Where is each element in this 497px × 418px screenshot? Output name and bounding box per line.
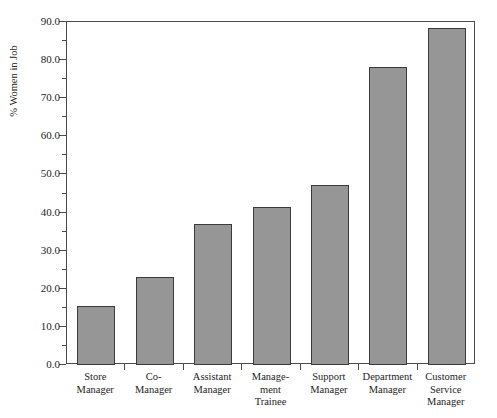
x-label-line: ment (241, 384, 299, 397)
x-label-line: Support (300, 371, 358, 384)
x-axis-label: CustomerServiceManager (417, 371, 475, 409)
x-tick-mark (358, 364, 359, 370)
y-tick-label: 0.0 (14, 358, 60, 370)
y-tick-mark (59, 364, 66, 365)
bar (369, 67, 407, 365)
x-tick-mark (300, 364, 301, 370)
x-tick-mark (241, 364, 242, 370)
x-axis-label: Manage-mentTrainee (241, 371, 299, 409)
y-tick-label: 30.0 (14, 244, 60, 256)
bar (253, 207, 291, 365)
x-label-line: Manager (124, 384, 182, 397)
x-axis-label: SupportManager (300, 371, 358, 396)
y-tick-mark (59, 250, 66, 251)
plot-area (66, 21, 475, 364)
y-tick-label: 60.0 (14, 129, 60, 141)
y-tick-mark (59, 135, 66, 136)
x-axis-label: Co-Manager (124, 371, 182, 396)
x-tick-mark (183, 364, 184, 370)
y-tick-label: 70.0 (14, 91, 60, 103)
y-tick-mark (59, 212, 66, 213)
x-label-line: Assistant (183, 371, 241, 384)
x-label-line: Service (417, 384, 475, 397)
x-label-line: Customer (417, 371, 475, 384)
y-tick-mark (59, 173, 66, 174)
x-axis-label: DepartmentManager (358, 371, 416, 396)
x-label-line: Trainee (241, 396, 299, 409)
y-tick-label: 40.0 (14, 206, 60, 218)
x-label-line: Manager (300, 384, 358, 397)
x-label-line: Manager (66, 384, 124, 397)
y-tick-label: 20.0 (14, 282, 60, 294)
x-axis-label: AssistantManager (183, 371, 241, 396)
y-tick-mark (59, 59, 66, 60)
x-label-line: Co- (124, 371, 182, 384)
x-label-line: Store (66, 371, 124, 384)
x-tick-mark (417, 364, 418, 370)
y-axis-title: % Women in Job (8, 16, 19, 146)
bar (136, 277, 174, 365)
y-tick-label: 80.0 (14, 53, 60, 65)
y-tick-mark (59, 288, 66, 289)
y-tick-mark (59, 326, 66, 327)
bar (194, 224, 232, 365)
x-label-line: Department (358, 371, 416, 384)
y-tick-mark (59, 21, 66, 22)
x-label-line: Manager (358, 384, 416, 397)
x-label-line: Manager (417, 396, 475, 409)
y-tick-mark (59, 97, 66, 98)
bar (311, 185, 349, 365)
bar (428, 28, 466, 365)
x-label-line: Manager (183, 384, 241, 397)
bar-chart: % Women in Job 0.010.020.030.040.050.060… (0, 0, 497, 418)
x-tick-mark (124, 364, 125, 370)
y-tick-label: 10.0 (14, 320, 60, 332)
x-label-line: Manage- (241, 371, 299, 384)
x-axis-label: StoreManager (66, 371, 124, 396)
y-tick-label: 50.0 (14, 167, 60, 179)
y-tick-label: 90.0 (14, 15, 60, 27)
bar (77, 306, 115, 365)
